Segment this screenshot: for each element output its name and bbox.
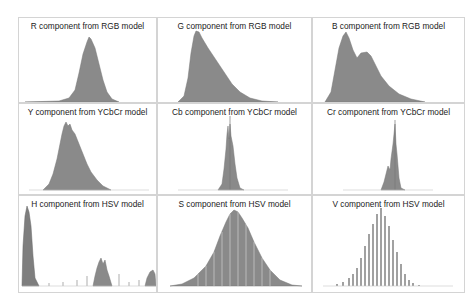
panel-cb-ycbcr: Cb component from YCbCr model	[157, 103, 312, 195]
histogram-cb	[158, 104, 312, 195]
histogram-v	[313, 196, 465, 293]
panel-title: H component from HSV model	[19, 199, 156, 209]
panel-r-rgb: R component from RGB model	[18, 17, 157, 103]
panel-s-hsv: S component from HSV model	[157, 195, 312, 293]
histogram-grid: R component from RGB model G component f…	[18, 17, 465, 293]
panel-cr-ycbcr: Cr component from YCbCr model	[312, 103, 465, 195]
panel-title: Y component from YCbCr model	[19, 107, 156, 117]
panel-title: Cr component from YCbCr model	[313, 107, 464, 117]
histogram-s	[158, 196, 312, 293]
panel-title: R component from RGB model	[19, 21, 156, 31]
histogram-h	[19, 196, 157, 293]
histogram-y	[19, 104, 157, 195]
panel-title: B component from RGB model	[313, 21, 464, 31]
panel-v-hsv: V component from HSV model	[312, 195, 465, 293]
panel-title: Cb component from YCbCr model	[158, 107, 311, 117]
histogram-cr	[313, 104, 465, 195]
panel-title: G component from RGB model	[158, 21, 311, 31]
panel-g-rgb: G component from RGB model	[157, 17, 312, 103]
panel-b-rgb: B component from RGB model	[312, 17, 465, 103]
panel-y-ycbcr: Y component from YCbCr model	[18, 103, 157, 195]
panel-title: V component from HSV model	[313, 199, 464, 209]
panel-h-hsv: H component from HSV model	[18, 195, 157, 293]
panel-title: S component from HSV model	[158, 199, 311, 209]
